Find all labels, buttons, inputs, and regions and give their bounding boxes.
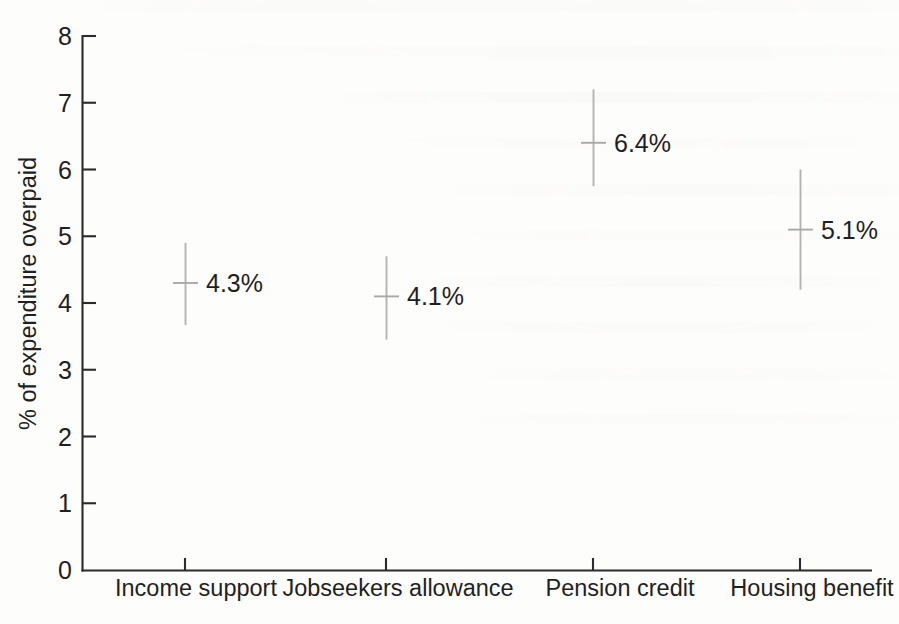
- y-tick-label-5: 5: [58, 222, 72, 250]
- value-label-jobseekers-allowance: 4.1%: [407, 282, 464, 310]
- y-axis-tick-labels: 8 7 6 5 4 3 2 1 0: [58, 22, 72, 584]
- x-category-label-income-support: Income support: [115, 575, 277, 601]
- chart-figure: 8 7 6 5 4 3 2 1 0 % of expenditure overp…: [0, 0, 899, 624]
- y-tick-label-7: 7: [58, 89, 72, 117]
- y-tick-label-4: 4: [58, 289, 72, 317]
- y-tick-label-3: 3: [58, 356, 72, 384]
- y-tick-label-0: 0: [58, 556, 72, 584]
- data-point-jobseekers-allowance: 4.1%: [374, 256, 464, 339]
- value-label-income-support: 4.3%: [206, 269, 263, 297]
- value-label-pension-credit: 6.4%: [614, 129, 671, 157]
- x-axis-category-labels: Income support Jobseekers allowance Pens…: [115, 575, 894, 601]
- x-category-label-jobseekers-allowance: Jobseekers allowance: [282, 575, 513, 601]
- data-point-pension-credit: 6.4%: [581, 89, 671, 186]
- y-axis-title: % of expenditure overpaid: [15, 157, 41, 430]
- data-point-income-support: 4.3%: [173, 243, 263, 325]
- error-bar-chart: 8 7 6 5 4 3 2 1 0 % of expenditure overp…: [0, 0, 899, 624]
- y-tick-label-8: 8: [58, 22, 72, 50]
- y-axis-ticks: [83, 36, 97, 570]
- x-category-label-pension-credit: Pension credit: [546, 575, 695, 601]
- value-label-housing-benefit: 5.1%: [821, 216, 878, 244]
- x-category-label-housing-benefit: Housing benefit: [730, 575, 894, 601]
- x-axis-ticks: [185, 558, 800, 571]
- y-tick-label-1: 1: [58, 489, 72, 517]
- data-point-housing-benefit: 5.1%: [788, 170, 878, 290]
- y-tick-label-6: 6: [58, 156, 72, 184]
- y-tick-label-2: 2: [58, 423, 72, 451]
